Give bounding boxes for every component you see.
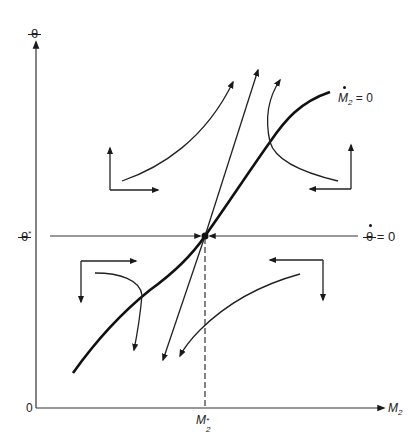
trajectory-lower-left bbox=[95, 273, 142, 350]
origin-label: 0 bbox=[26, 402, 33, 414]
trajectory-lower-right bbox=[180, 274, 300, 356]
m2-dot-zero-label: M2 = 0 bbox=[338, 92, 373, 107]
saddle-path bbox=[163, 70, 258, 360]
m2-star-label: M*2 bbox=[196, 414, 212, 426]
theta-dot-equals: = 0 bbox=[377, 229, 395, 244]
theta-star-symbol: θ bbox=[21, 230, 28, 243]
m2-dot-sub: 2 bbox=[348, 98, 352, 107]
x-axis-label-base: M bbox=[388, 401, 398, 415]
quadrant-arrows-upper-right bbox=[310, 145, 351, 189]
m2-star-base: M bbox=[196, 413, 206, 427]
theta-dot-marker bbox=[369, 224, 372, 227]
phase-diagram: θ 0 M2 θ* M*2 θ = 0 M2 = 0 bbox=[0, 0, 414, 439]
quadrant-arrows-lower-left bbox=[81, 261, 136, 302]
m2-star-sup: * bbox=[206, 417, 209, 425]
theta-star-label: θ* bbox=[21, 230, 31, 243]
m2-dot-equals: = 0 bbox=[356, 91, 373, 105]
theta-dot-symbol: θ bbox=[366, 230, 373, 243]
equilibrium-point bbox=[202, 233, 209, 240]
m2-dot-symbol: M bbox=[338, 91, 348, 105]
x-axis-label: M2 bbox=[388, 402, 402, 417]
x-axis-label-sub: 2 bbox=[398, 408, 402, 417]
m2-star-sub: 2 bbox=[206, 426, 210, 434]
m2-dot-marker bbox=[343, 86, 346, 89]
y-axis-label: θ bbox=[31, 27, 38, 40]
m2-dot-zero-locus bbox=[73, 92, 330, 373]
theta-symbol: θ bbox=[31, 27, 38, 40]
quadrant-arrows-lower-right bbox=[270, 260, 323, 300]
theta-dot-zero-label: θ = 0 bbox=[366, 230, 395, 243]
trajectory-upper-left bbox=[122, 82, 233, 181]
diagram-graphics bbox=[0, 0, 414, 439]
